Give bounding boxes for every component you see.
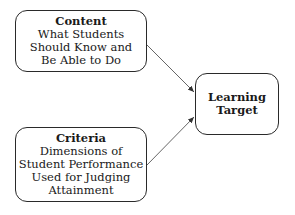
arrow-content-to-target — [147, 45, 194, 92]
arrow-criteria-to-target — [147, 117, 194, 165]
target-line: Target — [216, 104, 258, 117]
content-box: Content What Students Should Know and Be… — [15, 10, 147, 72]
criteria-line: Attainment — [48, 184, 113, 197]
content-line: Be Able to Do — [41, 54, 121, 67]
learning-target-box: Learning Target — [195, 73, 279, 135]
criteria-box: Criteria Dimensions of Student Performan… — [15, 127, 147, 202]
